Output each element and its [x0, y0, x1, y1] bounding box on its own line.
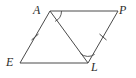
vertex-label-a: A: [33, 4, 40, 16]
geometry-canvas: [0, 0, 136, 78]
tick-mark-EA-icon: [32, 34, 39, 40]
vertex-label-p: P: [119, 4, 126, 16]
geometry-figure: A P L E: [0, 0, 136, 78]
tick-mark-PL-icon: [100, 34, 107, 40]
vertex-label-e: E: [6, 56, 13, 68]
vertex-label-l: L: [91, 61, 98, 73]
